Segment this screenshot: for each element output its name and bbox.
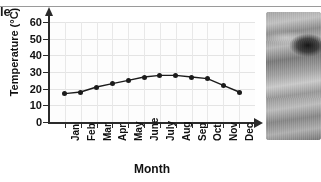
gridline-vertical <box>128 22 129 122</box>
y-axis-tick-label-wrap: 50 <box>20 34 42 45</box>
y-axis-tick-label-wrap: 0 <box>20 117 42 128</box>
y-axis-tick <box>43 72 48 73</box>
gridline-vertical <box>144 22 145 122</box>
x-axis-tick-label: July <box>165 130 176 141</box>
data-point-marker <box>237 90 242 95</box>
data-point-marker <box>142 75 147 80</box>
y-axis-arrow-icon <box>45 7 53 16</box>
x-axis-tick-label: Sep <box>197 130 208 141</box>
x-axis-arrow-icon <box>254 118 263 128</box>
gridline-vertical <box>176 22 177 122</box>
x-axis-tick-label: Feb <box>86 130 97 141</box>
gridline-vertical <box>192 22 193 122</box>
y-axis-tick <box>43 55 48 56</box>
x-axis-tick <box>176 123 177 128</box>
y-axis-tick <box>43 105 48 106</box>
x-axis-tick-label: Aug <box>181 130 192 141</box>
gridline-vertical <box>81 22 82 122</box>
data-point-marker <box>221 83 226 88</box>
y-axis-tick-label: 0 <box>24 117 42 128</box>
y-axis-tick <box>43 122 48 123</box>
y-axis-tick-label-wrap: 20 <box>20 84 42 95</box>
gridline-vertical <box>207 22 208 122</box>
x-axis-tick-label: Jan <box>70 130 81 141</box>
gridline-vertical <box>97 22 98 122</box>
y-axis-tick-label-wrap: 10 <box>20 100 42 111</box>
x-axis-title: Month <box>49 162 255 176</box>
data-point-marker <box>189 75 194 80</box>
y-axis-tick-label: 50 <box>24 34 42 45</box>
x-axis-tick-label: Mar <box>102 130 113 141</box>
gridline-vertical <box>65 22 66 122</box>
gridline-vertical <box>239 22 240 122</box>
x-axis-tick <box>112 123 113 128</box>
y-axis-tick-label-wrap: 40 <box>20 50 42 61</box>
x-axis-tick <box>128 123 129 128</box>
gridline-vertical <box>223 22 224 122</box>
y-axis-title: Temperature (°C) <box>8 0 20 104</box>
x-axis-tick-label: Dec <box>244 130 255 141</box>
y-axis-tick-label: 30 <box>24 67 42 78</box>
x-axis-tick <box>192 123 193 128</box>
data-point-marker <box>126 78 131 83</box>
sand-dunes-photograph <box>266 12 321 140</box>
data-point-marker <box>78 90 83 95</box>
x-axis-tick <box>65 123 66 128</box>
x-axis-tick-label: Nov <box>228 130 239 141</box>
y-axis-tick <box>43 22 48 23</box>
x-axis-tick-label: June <box>149 130 160 141</box>
x-axis-tick <box>160 123 161 128</box>
x-axis-tick-label: Oct <box>212 130 223 141</box>
x-axis-tick <box>144 123 145 128</box>
y-axis-tick <box>43 39 48 40</box>
y-axis-tick-label-wrap: 60 <box>20 17 42 28</box>
gridline-vertical <box>112 22 113 122</box>
y-axis-tick-label: 10 <box>24 100 42 111</box>
y-axis-tick-label: 60 <box>24 17 42 28</box>
x-axis-tick-label: Apr <box>117 130 128 141</box>
x-axis-tick <box>81 123 82 128</box>
x-axis-tick <box>223 123 224 128</box>
photo-texture-overlay <box>266 12 321 140</box>
data-point-marker <box>94 85 99 90</box>
x-axis-tick <box>97 123 98 128</box>
y-axis-tick <box>43 89 48 90</box>
y-axis-tick-label: 20 <box>24 84 42 95</box>
y-axis-tick-label-wrap: 30 <box>20 67 42 78</box>
plot-area <box>49 22 255 122</box>
gridline-vertical <box>160 22 161 122</box>
temperature-line-chart: Temperature (°C) Month 0102030405060JanF… <box>0 0 262 182</box>
y-axis-line <box>48 14 50 124</box>
y-axis-tick-label: 40 <box>24 50 42 61</box>
x-axis-tick <box>239 123 240 128</box>
x-axis-tick-label: May <box>133 130 144 141</box>
x-axis-tick <box>207 123 208 128</box>
